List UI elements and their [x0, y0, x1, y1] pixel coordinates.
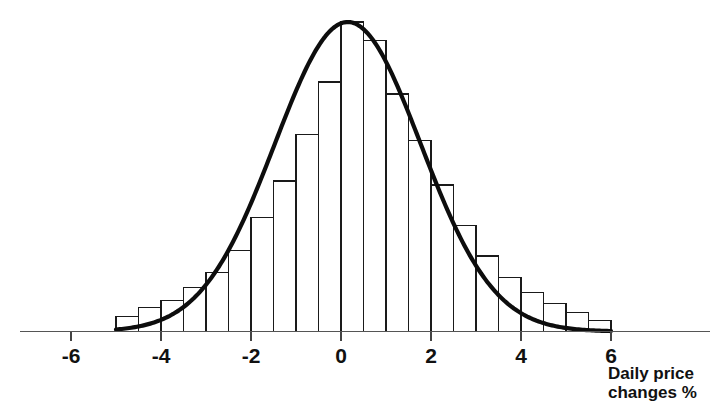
- histogram-bars: [116, 22, 611, 332]
- histogram-bar: [454, 226, 477, 332]
- histogram-bar: [296, 135, 319, 332]
- histogram-bar: [274, 181, 297, 332]
- histogram-bar: [341, 22, 364, 332]
- x-axis-tick-label: -2: [242, 344, 261, 367]
- x-axis-tick-label: 2: [425, 344, 437, 367]
- histogram-bar: [431, 185, 454, 332]
- histogram-with-normal-curve: -6-4-20246 Daily price changes %: [0, 0, 721, 418]
- x-axis-ticks: [71, 332, 611, 341]
- histogram-bar: [319, 82, 342, 331]
- histogram-bar: [229, 250, 252, 331]
- histogram-bar: [521, 293, 544, 332]
- x-axis-tick-label: -6: [62, 344, 81, 367]
- x-axis-tick-label: 0: [335, 344, 347, 367]
- chart-container: -6-4-20246 Daily price changes %: [0, 0, 721, 418]
- x-axis-tick-labels: -6-4-20246: [62, 344, 617, 367]
- histogram-bar: [386, 94, 409, 331]
- x-axis-title-line1: Daily price: [608, 364, 694, 383]
- histogram-bar: [251, 218, 274, 332]
- x-axis-tick-label: -4: [152, 344, 171, 367]
- x-axis-title-line2: changes %: [608, 383, 697, 402]
- histogram-bar: [409, 141, 432, 332]
- histogram-bar: [184, 288, 207, 332]
- histogram-bar: [364, 41, 387, 332]
- x-axis-tick-label: 4: [515, 344, 527, 367]
